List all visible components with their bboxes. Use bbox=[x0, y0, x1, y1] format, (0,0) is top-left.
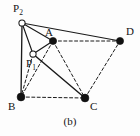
node-A bbox=[49, 37, 56, 44]
edge-C-D bbox=[85, 41, 120, 98]
edge-P1-C bbox=[33, 54, 85, 98]
figure-panel: P2 A D P1 B C (b) bbox=[0, 0, 140, 136]
node-label-P1: P1 bbox=[26, 58, 36, 72]
edge-B-C bbox=[21, 97, 85, 98]
node-label-P1-subscript: 1 bbox=[32, 63, 36, 72]
node-label-C: C bbox=[90, 101, 97, 112]
node-label-A: A bbox=[45, 27, 53, 38]
edge-A-C bbox=[53, 41, 85, 98]
edge-P2-P1 bbox=[22, 23, 33, 54]
node-label-A-text: A bbox=[45, 26, 53, 38]
node-label-B: B bbox=[8, 101, 15, 112]
node-label-C-text: C bbox=[90, 100, 97, 112]
node-P2 bbox=[19, 20, 25, 26]
node-label-D: D bbox=[126, 26, 134, 37]
node-label-P2: P2 bbox=[13, 3, 23, 17]
node-D bbox=[116, 37, 123, 44]
edge-P2-B bbox=[21, 23, 22, 97]
node-label-B-text: B bbox=[8, 100, 15, 112]
node-C bbox=[81, 94, 89, 102]
node-label-P2-subscript: 2 bbox=[19, 8, 23, 17]
figure-caption: (b) bbox=[0, 116, 140, 127]
node-B bbox=[17, 93, 25, 101]
node-label-D-text: D bbox=[126, 25, 134, 37]
